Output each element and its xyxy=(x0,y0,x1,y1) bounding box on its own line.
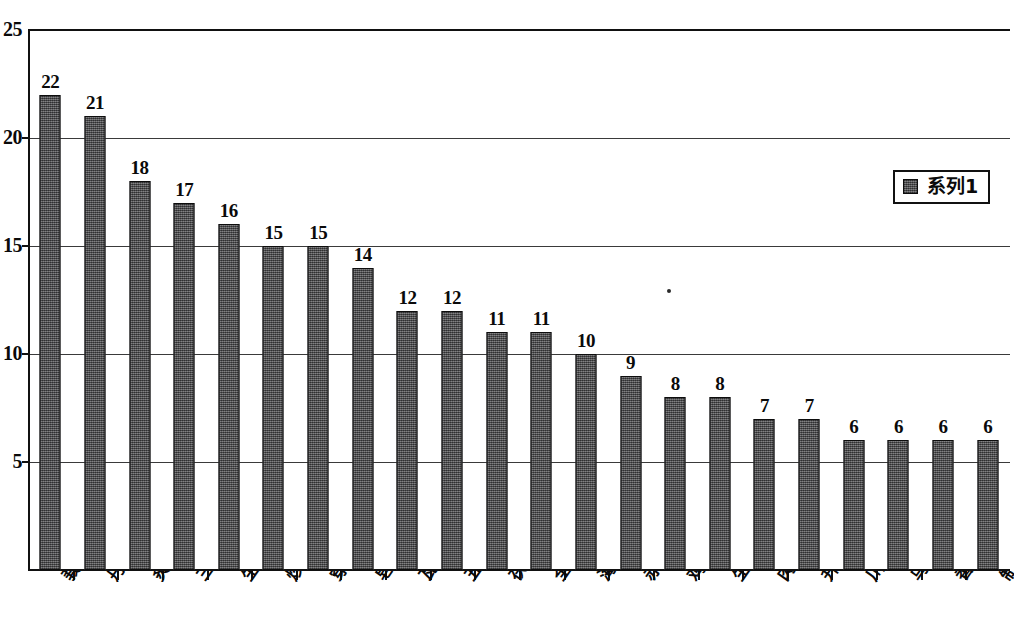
bar-value-label: 6 xyxy=(939,417,948,436)
x-axis-category-label: 皂角刺 xyxy=(372,573,388,584)
bar-value-label: 6 xyxy=(983,417,992,436)
bar[interactable] xyxy=(263,246,284,570)
bar-value-label: 16 xyxy=(220,201,238,220)
bar-value-label: 7 xyxy=(760,396,769,415)
bar[interactable] xyxy=(933,440,954,570)
bar[interactable] xyxy=(129,181,150,570)
bar[interactable] xyxy=(531,332,552,570)
bar-value-label: 9 xyxy=(626,353,635,372)
bar[interactable] xyxy=(218,224,239,570)
bar-slot: 6 xyxy=(965,30,1010,570)
bar-value-label: 15 xyxy=(264,223,282,242)
scan-artifact-speck xyxy=(667,289,671,293)
bar-slot: 17 xyxy=(162,30,207,570)
bar[interactable] xyxy=(352,268,373,570)
bar-value-label: 6 xyxy=(894,417,903,436)
bar[interactable] xyxy=(575,354,596,570)
bar[interactable] xyxy=(486,332,507,570)
x-axis-category-label: 三棱 xyxy=(193,573,209,584)
x-axis-category-label: 肉桂 xyxy=(774,573,790,584)
bar-value-label: 14 xyxy=(354,245,372,264)
bar-slot: 7 xyxy=(787,30,832,570)
bar-slot: 11 xyxy=(519,30,564,570)
bar-chart: 510152025 222118171615151412121111109887… xyxy=(0,0,1014,634)
bar[interactable] xyxy=(174,203,195,570)
y-axis-tick-label: 20 xyxy=(0,127,22,147)
bar[interactable] xyxy=(665,397,686,570)
x-axis-category-label: 穿山甲 xyxy=(327,573,343,584)
x-axis-category-label: 升麻 xyxy=(818,573,834,584)
x-axis-category-label: 制香附 xyxy=(997,573,1013,584)
x-axis-category-label: 乌药 xyxy=(907,573,923,584)
bar-slot: 15 xyxy=(296,30,341,570)
bar[interactable] xyxy=(754,419,775,570)
y-axis-tick-label: 15 xyxy=(0,235,22,255)
bar-value-label: 8 xyxy=(671,374,680,393)
bar-slot: 14 xyxy=(340,30,385,570)
bar[interactable] xyxy=(442,311,463,570)
x-axis-category-label: 川断 xyxy=(863,573,879,584)
bar-slot: 8 xyxy=(653,30,698,570)
bar-slot: 18 xyxy=(117,30,162,570)
bar-value-label: 8 xyxy=(715,374,724,393)
bar-slot: 15 xyxy=(251,30,296,570)
bar-value-label: 12 xyxy=(398,288,416,307)
x-axis-category-label: 茯苓 xyxy=(506,573,522,584)
bar-value-label: 18 xyxy=(131,158,149,177)
x-axis-labels: 莪术丹参炙黄芪三棱生蒲黄炒白术穿山甲皂角刺瓦楞子五灵脂茯苓全当归海蛤壳赤芍鸡内金… xyxy=(0,571,1014,634)
bar[interactable] xyxy=(977,440,998,570)
bar-slot: 6 xyxy=(921,30,966,570)
bar-slot: 10 xyxy=(564,30,609,570)
bar-slot: 6 xyxy=(831,30,876,570)
x-axis-category-label: 生牡蛎 xyxy=(729,573,745,584)
bar[interactable] xyxy=(397,311,418,570)
bar-value-label: 21 xyxy=(86,93,104,112)
bar-slot: 6 xyxy=(876,30,921,570)
bar-value-label: 10 xyxy=(577,331,595,350)
y-axis-tick-label: 25 xyxy=(0,19,22,39)
x-axis-category-label: 炒白术 xyxy=(283,573,299,584)
x-axis-category-label: 香附 xyxy=(952,573,968,584)
bar-value-label: 12 xyxy=(443,288,461,307)
bar[interactable] xyxy=(799,419,820,570)
bar[interactable] xyxy=(709,397,730,570)
bar-slot: 7 xyxy=(742,30,787,570)
x-axis-category-label: 全当归 xyxy=(550,573,566,584)
legend-entry-label: 系列1 xyxy=(927,177,978,196)
bar-slot: 22 xyxy=(28,30,73,570)
x-axis-category-label: 海蛤壳 xyxy=(595,573,611,584)
y-axis-tick-label: 5 xyxy=(0,451,22,471)
legend-swatch-icon xyxy=(903,179,918,194)
bar-value-label: 15 xyxy=(309,223,327,242)
x-axis-category-label: 赤芍 xyxy=(640,573,656,584)
x-axis-category-label: 丹参 xyxy=(104,573,120,584)
bar-slot: 8 xyxy=(698,30,743,570)
x-axis-category-label: 鸡内金 xyxy=(684,573,700,584)
x-axis-category-label: 生蒲黄 xyxy=(238,573,254,584)
bar[interactable] xyxy=(40,95,61,570)
x-axis-category-label: 莪术 xyxy=(59,573,75,584)
bar[interactable] xyxy=(888,440,909,570)
bar-slot: 16 xyxy=(207,30,252,570)
bar-value-label: 11 xyxy=(488,309,505,328)
x-axis-category-label: 五灵脂 xyxy=(461,573,477,584)
bar-value-label: 11 xyxy=(533,309,550,328)
bar[interactable] xyxy=(308,246,329,570)
bar-value-label: 22 xyxy=(41,72,59,91)
legend[interactable]: 系列1 xyxy=(893,170,990,204)
bar-slot: 21 xyxy=(73,30,118,570)
bars-layer: 22211817161515141212111110988776666 xyxy=(28,30,1010,570)
bar-value-label: 7 xyxy=(805,396,814,415)
x-axis-category-label: 瓦楞子 xyxy=(416,573,432,584)
bar[interactable] xyxy=(84,116,105,570)
bar-slot: 9 xyxy=(608,30,653,570)
bar[interactable] xyxy=(843,440,864,570)
bar-slot: 12 xyxy=(385,30,430,570)
bar-value-label: 17 xyxy=(175,180,193,199)
y-axis-tick-label: 10 xyxy=(0,343,22,363)
x-axis-category-label: 炙黄芪 xyxy=(149,573,165,584)
bar-slot: 11 xyxy=(474,30,519,570)
bar-value-label: 6 xyxy=(849,417,858,436)
bar-slot: 12 xyxy=(430,30,475,570)
bar[interactable] xyxy=(620,376,641,570)
